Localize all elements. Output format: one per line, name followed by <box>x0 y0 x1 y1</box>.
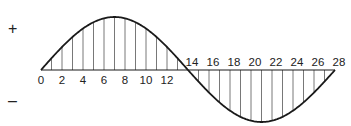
x-tick-label: 20 <box>249 56 262 68</box>
x-tick-label: 14 <box>186 56 199 68</box>
x-tick-label: 10 <box>140 74 153 86</box>
x-tick-label: 12 <box>161 74 174 86</box>
sine-wave-diagram: + – 0246810121416182022242628 <box>0 0 351 126</box>
x-tick-label: 22 <box>270 56 283 68</box>
x-tick-label: 2 <box>59 74 65 86</box>
x-tick-label: 8 <box>122 74 128 86</box>
x-tick-label: 16 <box>207 56 220 68</box>
x-tick-label: 28 <box>333 56 346 68</box>
x-tick-label: 0 <box>38 74 44 86</box>
x-tick-label: 24 <box>291 56 304 68</box>
positive-sign: + <box>8 20 17 37</box>
x-tick-label: 18 <box>228 56 241 68</box>
x-tick-label: 26 <box>312 56 325 68</box>
x-tick-label: 6 <box>101 74 107 86</box>
x-tick-label: 4 <box>80 74 87 86</box>
x-axis-labels: 0246810121416182022242628 <box>38 56 346 86</box>
negative-sign: – <box>8 92 17 109</box>
